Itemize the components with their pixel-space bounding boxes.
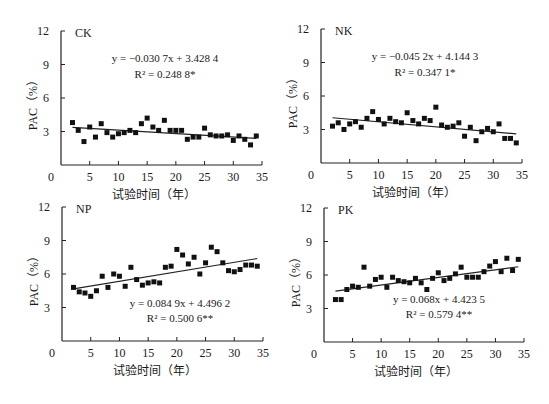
y-tick-label: 9	[44, 234, 50, 248]
x-tick-label: 30	[227, 170, 239, 184]
x-tick-label: 5	[87, 170, 93, 184]
data-point	[214, 133, 219, 138]
data-point	[393, 119, 398, 124]
data-point	[219, 133, 224, 138]
panel-ck: 0510152025303536912CK试验时间（年）PAC（%）y = −0…	[26, 24, 268, 202]
data-point	[410, 118, 415, 123]
x-axis-title: 试验时间（年）	[112, 187, 196, 202]
data-point	[459, 265, 464, 270]
regression-equation: y = 0.068x + 4.423 5	[393, 293, 486, 305]
data-point	[451, 124, 456, 129]
data-point	[104, 130, 109, 135]
y-tick-label: 12	[297, 22, 309, 36]
data-point	[173, 128, 178, 133]
data-point	[220, 260, 225, 265]
data-point	[379, 275, 384, 280]
data-point	[174, 247, 179, 252]
x-tick-label: 25	[459, 168, 471, 182]
panel-label: PK	[338, 203, 354, 217]
data-point	[390, 275, 395, 280]
data-point	[367, 284, 372, 289]
y-tick-label: 12	[300, 201, 312, 215]
data-point	[341, 127, 346, 132]
y-tick-label: 9	[43, 58, 49, 72]
data-point	[430, 276, 435, 281]
trend-line	[73, 259, 257, 289]
x-tick-label: 10	[113, 346, 125, 360]
regression-equation: y = −0.030 7x + 3.428 4	[112, 52, 219, 64]
data-point	[508, 136, 513, 141]
data-point	[162, 118, 167, 123]
data-point	[100, 274, 105, 279]
data-point	[110, 135, 115, 140]
data-point	[163, 265, 168, 270]
x-tick-label: 20	[171, 346, 183, 360]
data-point	[362, 265, 367, 270]
data-point	[71, 285, 76, 290]
data-point	[255, 264, 260, 269]
data-point	[146, 280, 151, 285]
data-point	[70, 120, 75, 125]
data-point	[145, 116, 150, 121]
data-point	[413, 276, 418, 281]
data-point	[516, 257, 521, 262]
data-point	[399, 120, 404, 125]
data-point	[479, 129, 484, 134]
x-tick-label: 25	[200, 346, 212, 360]
data-point	[168, 128, 173, 133]
y-axis-title: PAC（%）	[289, 251, 303, 307]
x-tick-label: 20	[430, 168, 442, 182]
x-tick-label: 0	[308, 168, 314, 182]
data-point	[514, 140, 519, 145]
x-tick-label: 10	[375, 347, 387, 361]
data-point	[150, 125, 155, 130]
data-point	[191, 135, 196, 140]
y-tick-label: 6	[43, 91, 49, 105]
data-point	[93, 135, 98, 140]
data-point	[502, 136, 507, 141]
data-point	[157, 280, 162, 285]
x-tick-label: 35	[257, 346, 269, 360]
data-point	[336, 120, 341, 125]
data-point	[499, 269, 504, 274]
y-tick-label: 9	[303, 56, 309, 70]
data-point	[203, 260, 208, 265]
x-tick-label: 35	[516, 168, 528, 182]
data-point	[117, 274, 122, 279]
data-point	[482, 269, 487, 274]
data-point	[196, 135, 201, 140]
y-tick-label: 12	[38, 200, 50, 214]
data-point	[407, 280, 412, 285]
data-point	[254, 133, 259, 138]
data-point	[476, 275, 481, 280]
x-tick-label: 15	[141, 170, 153, 184]
data-point	[185, 137, 190, 142]
data-point	[333, 297, 338, 302]
data-point	[105, 285, 110, 290]
data-point	[140, 283, 145, 288]
data-point	[359, 125, 364, 130]
data-point	[485, 126, 490, 131]
y-tick-label: 6	[306, 268, 312, 282]
x-tick-label: 5	[347, 168, 353, 182]
data-point	[487, 264, 492, 269]
data-point	[405, 110, 410, 115]
data-point	[127, 128, 132, 133]
data-point	[387, 116, 392, 121]
data-point	[76, 128, 81, 133]
x-tick-label: 0	[311, 347, 317, 361]
data-point	[169, 264, 174, 269]
r-squared-label: R² = 0.347 1*	[395, 66, 456, 78]
x-axis-title: 试验时间（年）	[372, 185, 456, 200]
data-point	[237, 133, 242, 138]
data-point	[134, 277, 139, 282]
x-tick-label: 0	[49, 346, 55, 360]
panel-nk: 0510152025303536912NK试验时间（年）PAC（%）y = −0…	[286, 22, 528, 200]
panel-pk: 0510152025303536912PK试验时间（年）PAC（%）y = 0.…	[289, 201, 530, 379]
data-point	[111, 272, 116, 277]
data-point	[464, 275, 469, 280]
data-point	[436, 270, 441, 275]
y-tick-label: 3	[303, 123, 309, 137]
panel-label: NP	[76, 202, 92, 216]
x-tick-label: 25	[461, 347, 473, 361]
